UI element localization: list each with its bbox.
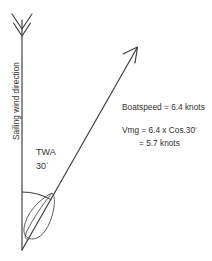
vmg-degree-symbol-icon: °: [195, 126, 197, 132]
twa-angle-value: 30°: [36, 161, 48, 171]
twa-angle-number: 30: [36, 161, 46, 171]
sailing-vmg-diagram: Sailing wind direction TWA 30° Boatspeed…: [0, 0, 212, 261]
sail-luff-curve: [25, 193, 52, 239]
vmg-result: = 5.7 knots: [139, 139, 180, 147]
vmg-formula-text: Vmg = 6.4 x Cos.30: [122, 125, 195, 135]
boatspeed-readout: Boatspeed = 6.4 knots: [122, 103, 205, 111]
twa-label: TWA: [36, 148, 56, 157]
twa-degree-symbol-icon: °: [46, 161, 48, 167]
vmg-formula: Vmg = 6.4 x Cos.30°: [122, 126, 197, 134]
sail-outline-shape: [24, 193, 55, 239]
wind-direction-label: Sailing wind direction: [12, 62, 20, 140]
